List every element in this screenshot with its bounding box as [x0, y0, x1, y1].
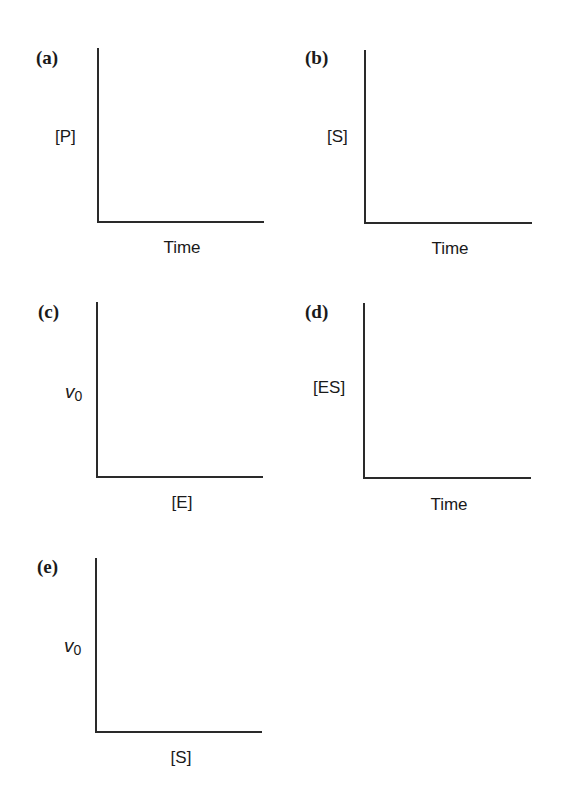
y-axis-label-d: [ES] — [313, 379, 345, 396]
panel-letter-a: (a) — [36, 48, 58, 67]
y-axis-label-e: v0 — [64, 636, 81, 657]
x-axis-label-d: Time — [430, 496, 467, 513]
x-axis-label-b: Time — [431, 240, 468, 257]
v-symbol: v — [64, 635, 74, 656]
y-axis-a — [97, 48, 99, 223]
y-axis-b — [364, 50, 366, 224]
y-axis-label-c: v0 — [65, 382, 82, 403]
x-axis-c — [96, 476, 263, 478]
x-axis-label-e: [S] — [171, 749, 192, 766]
panel-letter-b: (b) — [305, 48, 328, 67]
y-axis-c — [96, 302, 98, 478]
y-axis-label-b: [S] — [327, 128, 348, 145]
y-axis-d — [363, 303, 365, 479]
panel-letter-c: (c) — [38, 302, 59, 321]
y-axis-label-a: [P] — [55, 128, 76, 145]
x-axis-b — [364, 222, 532, 224]
panel-letter-e: (e) — [37, 557, 58, 576]
x-axis-a — [97, 221, 264, 223]
panel-letter-d: (d) — [305, 302, 328, 321]
x-axis-label-c: [E] — [172, 494, 193, 511]
subscript-zero: 0 — [75, 388, 83, 404]
subscript-zero: 0 — [74, 642, 82, 658]
x-axis-e — [95, 731, 262, 733]
y-axis-e — [95, 558, 97, 733]
x-axis-d — [363, 477, 531, 479]
v-symbol: v — [65, 381, 75, 402]
x-axis-label-a: Time — [163, 239, 200, 256]
